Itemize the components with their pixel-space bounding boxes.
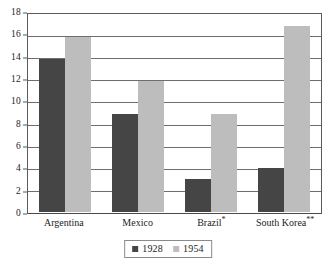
bar-group bbox=[29, 15, 102, 212]
y-tick-label: 18 bbox=[11, 8, 21, 18]
y-tick-label: 8 bbox=[16, 120, 21, 130]
x-axis-label: Argentina bbox=[27, 216, 101, 232]
bar-argentina-1928 bbox=[39, 59, 65, 212]
chart-legend: 19281954 bbox=[124, 240, 212, 258]
bars-layer bbox=[29, 15, 320, 212]
bar-brazil-1928 bbox=[185, 179, 211, 212]
footnote-marker: ** bbox=[306, 215, 314, 224]
bar-argentina-1954 bbox=[65, 37, 91, 212]
bar-group bbox=[175, 15, 248, 212]
legend-swatch-icon bbox=[132, 246, 138, 252]
y-tick-label: 2 bbox=[16, 187, 21, 197]
y-tick-label: 4 bbox=[16, 165, 21, 175]
legend-item-1954: 1954 bbox=[173, 243, 204, 254]
legend-swatch-icon bbox=[173, 246, 179, 252]
bar-mexico-1928 bbox=[112, 114, 138, 213]
x-axis-label: Mexico bbox=[101, 216, 175, 232]
legend-label: 1954 bbox=[183, 243, 204, 254]
bar-south-korea-1928 bbox=[258, 168, 284, 212]
bar-group bbox=[247, 15, 320, 212]
footnote-marker: * bbox=[222, 215, 226, 224]
y-tick-label: 0 bbox=[16, 209, 21, 219]
bar-south-korea-1954 bbox=[284, 26, 310, 212]
y-tick-label: 16 bbox=[11, 31, 21, 41]
x-axis-labels: ArgentinaMexicoBrazil*South Korea** bbox=[27, 216, 322, 232]
x-axis-label: South Korea** bbox=[248, 216, 322, 232]
y-tick-label: 10 bbox=[11, 98, 21, 108]
plot-area-wrapper bbox=[27, 13, 322, 214]
y-tick-label: 6 bbox=[16, 142, 21, 152]
legend-label: 1928 bbox=[142, 243, 163, 254]
bar-brazil-1954 bbox=[211, 114, 237, 213]
plot-area bbox=[27, 13, 322, 214]
y-tick-label: 12 bbox=[11, 75, 21, 85]
y-axis: 181614121086420 bbox=[0, 13, 27, 214]
bar-mexico-1954 bbox=[138, 81, 164, 212]
y-tick-label: 14 bbox=[11, 53, 21, 63]
x-axis-label: Brazil* bbox=[175, 216, 249, 232]
bar-chart-figure: 181614121086420 ArgentinaMexicoBrazil*So… bbox=[0, 0, 336, 268]
bar-group bbox=[102, 15, 175, 212]
legend-item-1928: 1928 bbox=[132, 243, 163, 254]
